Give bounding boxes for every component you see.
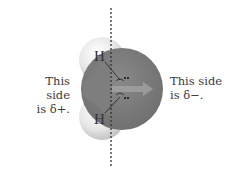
right-side-label: This side is δ−.: [170, 74, 230, 102]
lone-pair-dot: [127, 97, 129, 99]
left-label-line2: is δ+.: [20, 102, 70, 116]
left-side-label: This side is δ+.: [20, 74, 70, 116]
left-label-line1: This side: [20, 74, 70, 102]
right-label-line1: This side: [170, 74, 230, 88]
lone-pair-dot: [124, 97, 126, 99]
right-label-line2: is δ−.: [170, 88, 230, 102]
lone-pair-dot: [124, 77, 126, 79]
lone-pair-dot: [127, 77, 129, 79]
hydrogen-label-top: H: [94, 48, 105, 64]
hydrogen-label-bottom: H: [94, 111, 105, 127]
